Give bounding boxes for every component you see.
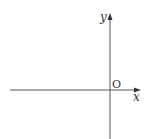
y-axis-arrow-icon (108, 13, 113, 20)
origin-label: O (112, 78, 121, 91)
y-axis-label: y (99, 10, 107, 24)
coordinate-plane: y O x (0, 0, 151, 139)
x-axis-label: x (133, 90, 140, 104)
